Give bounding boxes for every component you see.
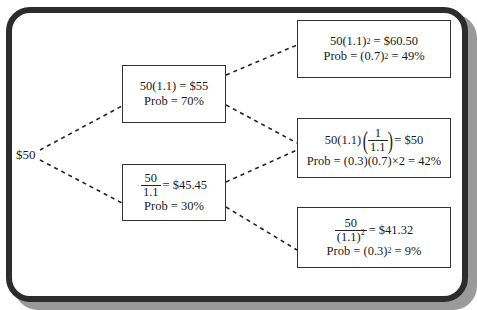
node-down-prob: Prob = 30% — [144, 199, 204, 214]
node-upup-value: 50(1.1)2 = $60.50 — [330, 34, 418, 49]
branch-up-upup — [226, 45, 297, 75]
fraction: 1 1.1 — [368, 127, 388, 154]
node-down-value: 50 1.1 = $45.45 — [141, 172, 207, 199]
root-value-label: $50 — [16, 147, 36, 163]
fraction: 50 1.1 — [141, 172, 161, 199]
node-upup-prob: Prob = (0.7)2 = 49% — [323, 49, 424, 64]
node-down: 50 1.1 = $45.45 Prob = 30% — [122, 164, 226, 221]
branch-down-downdown — [226, 207, 297, 250]
right-paren: ) — [387, 128, 392, 154]
node-up: 50(1.1) = $55 Prob = 70% — [122, 65, 226, 123]
node-downdown-prob: Prob = (0.3)2 = 9% — [327, 244, 422, 259]
node-downdown: 50 (1.1)2 = $41.32 Prob = (0.3)2 = 9% — [297, 207, 451, 268]
branch-root-down — [40, 160, 122, 203]
left-paren: ( — [363, 128, 368, 154]
node-up-prob: Prob = 70% — [144, 94, 204, 109]
branch-root-up — [40, 106, 122, 150]
node-downdown-value: 50 (1.1)2 = $41.32 — [335, 217, 414, 244]
node-updown-prob: Prob = (0.3)(0.7)×2 = 42% — [307, 154, 441, 169]
node-updown: 50(1.1) ( 1 1.1 ) = $50 Prob = (0.3)(0.7… — [297, 118, 451, 178]
branch-up-updown — [226, 105, 297, 143]
node-up-value: 50(1.1) = $55 — [140, 79, 209, 94]
node-updown-value: 50(1.1) ( 1 1.1 ) = $50 — [325, 127, 423, 154]
branch-down-updown — [226, 150, 297, 182]
fraction: 50 (1.1)2 — [335, 217, 367, 244]
node-upup: 50(1.1)2 = $60.50 Prob = (0.7)2 = 49% — [297, 20, 451, 78]
